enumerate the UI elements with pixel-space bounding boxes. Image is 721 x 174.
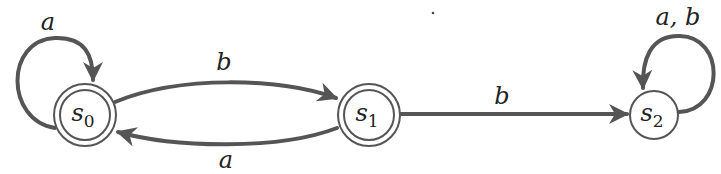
state-s1: s1 (338, 84, 400, 146)
state-s2: s2 (630, 91, 678, 139)
state-s0: s0 (54, 84, 116, 146)
transition-label: a (219, 146, 233, 174)
arc-arrow-s1-s0 (118, 128, 337, 144)
transition-s1-s2: b (401, 82, 627, 114)
transition-s0-s1: b (115, 48, 336, 102)
arc-arrow-s0-s1 (115, 82, 336, 102)
transition-label: b (494, 82, 509, 110)
transition-s1-s0: a (118, 128, 337, 174)
transition-label: a, b (656, 3, 701, 31)
automaton-diagram: a b a b a, b s0 s1 s2 (0, 0, 721, 174)
transition-label: a (41, 8, 55, 36)
transition-label: b (216, 48, 231, 76)
speck-mark (432, 12, 435, 15)
